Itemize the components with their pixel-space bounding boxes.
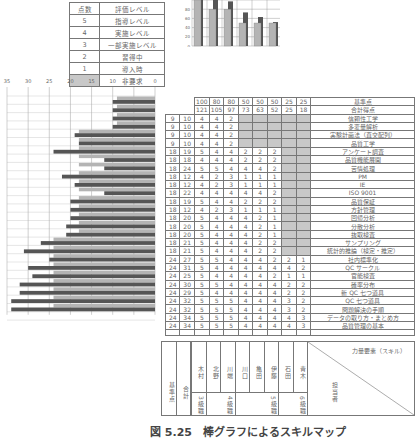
row-standard: 18	[166, 197, 180, 205]
svg-text:10: 10	[110, 78, 116, 84]
person-name: 北野	[206, 341, 222, 393]
not-required-cell	[296, 205, 310, 213]
table-row: 1820544421抜取検査	[166, 230, 415, 238]
table-row: 910442品質工学	[166, 139, 415, 147]
score-cell: 5	[194, 297, 209, 305]
score-cell: 4	[238, 239, 252, 247]
svg-text:25: 25	[46, 78, 52, 84]
score-cell: 5	[224, 322, 238, 330]
total-point: 63	[253, 106, 267, 114]
not-required-cell	[296, 230, 310, 238]
score-cell: 4	[224, 280, 238, 288]
legend-header-score: 点数	[70, 3, 100, 15]
person-axis-label: 担当者	[330, 382, 339, 403]
score-cell: 2	[238, 197, 252, 205]
skill-name: ISO 9001	[311, 189, 415, 197]
score-cell: 5	[194, 147, 209, 155]
not-required-cell	[282, 139, 296, 147]
score-cell: 5	[209, 322, 224, 330]
score-cell: 4	[209, 139, 224, 147]
row-standard: 18	[166, 214, 180, 222]
score-cell: 3	[282, 297, 296, 305]
score-cell: 4	[267, 263, 281, 271]
not-required-cell	[296, 189, 310, 197]
score-cell: 4	[238, 222, 252, 230]
row-total: 30	[180, 280, 194, 288]
score-cell: 5	[194, 305, 209, 313]
total-point: 105	[209, 106, 224, 114]
grade-label: 6級職	[278, 392, 308, 416]
score-cell: 4	[209, 272, 224, 280]
score-cell: 2	[253, 230, 267, 238]
person-name: 伊藤	[264, 341, 280, 393]
score-cell: 2	[296, 288, 310, 296]
row-total: 10	[180, 122, 194, 130]
score-cell: 4	[238, 247, 252, 255]
score-cell: 2	[267, 197, 281, 205]
score-cell: 5	[194, 263, 209, 271]
score-cell: 4	[209, 239, 224, 247]
table-row: 1812423111IE	[166, 180, 415, 188]
not-required-cell	[253, 114, 267, 122]
legend-row: 3一部実施レベル	[70, 39, 165, 51]
row-total: 20	[180, 222, 194, 230]
score-cell: 5	[194, 222, 209, 230]
not-required-cell	[282, 214, 296, 222]
score-cell: 4	[224, 239, 238, 247]
row-total: 12	[180, 180, 194, 188]
table-row: 1820544421回帰分析	[166, 214, 415, 222]
score-cell: 1	[267, 172, 281, 180]
score-cell: 2	[253, 247, 267, 255]
skill-name: 確率分布	[311, 280, 415, 288]
score-cell: 4	[224, 255, 238, 263]
table-row: 242954444422新 QC 七つ道具	[166, 288, 415, 296]
skill-name: 抜取検査	[311, 230, 415, 238]
row-standard: 18	[166, 189, 180, 197]
row-standard: 9	[166, 114, 180, 122]
score-cell: 4	[282, 263, 296, 271]
not-required-cell	[296, 180, 310, 188]
legend-header-level: 評価レベル	[100, 3, 165, 15]
not-required-cell	[296, 139, 310, 147]
score-cell: 1	[267, 180, 281, 188]
person-name: 川口	[235, 341, 251, 393]
score-cell: 1	[253, 180, 267, 188]
svg-text:40: 40	[185, 25, 191, 30]
row-total: 12	[180, 205, 194, 213]
score-cell: 2	[253, 197, 267, 205]
score-cell: 1	[253, 172, 267, 180]
not-required-cell	[238, 139, 252, 147]
score-cell: 5	[194, 280, 209, 288]
row-total: 34	[180, 322, 194, 330]
score-cell: 4	[253, 305, 267, 313]
skill-name: 実験計画法（直交配列）	[311, 131, 415, 139]
not-required-cell	[296, 222, 310, 230]
not-required-cell	[282, 222, 296, 230]
figure-caption: 図 5.25 棒グラフによるスキルマップ	[150, 423, 346, 439]
score-cell: 2	[267, 156, 281, 164]
score-cell: 4	[253, 288, 267, 296]
score-cell: 4	[253, 263, 267, 271]
score-cell: 1	[282, 272, 296, 280]
score-cell: 4	[224, 197, 238, 205]
not-required-cell	[282, 230, 296, 238]
score-cell: 4	[194, 172, 209, 180]
not-required-cell	[296, 147, 310, 155]
score-cell: 4	[267, 297, 281, 305]
score-cell: 4	[209, 189, 224, 197]
score-cell: 2	[296, 280, 310, 288]
row-total: 18	[180, 156, 194, 164]
not-required-cell	[267, 131, 281, 139]
score-cell: 4	[209, 197, 224, 205]
row-standard: 24	[166, 322, 180, 330]
row-standard: 18	[166, 172, 180, 180]
score-cell: 5	[224, 297, 238, 305]
score-cell: 4	[224, 164, 238, 172]
score-cell: 4	[194, 205, 209, 213]
not-required-cell	[282, 239, 296, 247]
axis-corner-cell: 力量要素（スキル）担当者	[307, 341, 415, 416]
score-cell: 5	[194, 230, 209, 238]
score-cell: 4	[224, 156, 238, 164]
score-cell: 2	[224, 139, 238, 147]
row-total: 34	[180, 313, 194, 321]
